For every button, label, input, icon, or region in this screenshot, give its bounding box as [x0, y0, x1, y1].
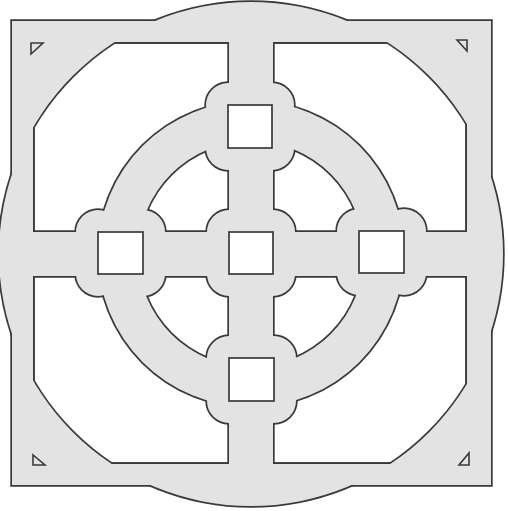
- square-opening-bottom: [229, 358, 274, 401]
- square-opening-center: [229, 232, 273, 274]
- square-opening-left: [98, 232, 143, 274]
- grille-diagram: [0, 0, 508, 511]
- square-opening-right: [359, 231, 404, 273]
- square-opening-top: [228, 105, 272, 148]
- diagram-stage: Square lattice grille panel with circula…: [0, 0, 508, 511]
